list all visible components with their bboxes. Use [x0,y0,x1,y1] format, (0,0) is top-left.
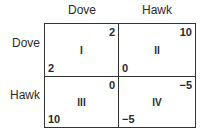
row-player-payoff: −5 [122,113,135,125]
row-header-hawk: Hawk [0,88,40,102]
col-player-payoff: 2 [109,26,115,38]
cell-II: 10 II 0 [119,24,195,76]
cell-III: 0 III 10 [45,77,118,127]
row-player-payoff: 0 [122,62,128,74]
col-player-payoff: 0 [109,79,115,91]
col-player-payoff: 10 [180,26,192,38]
row-player-payoff: 2 [48,62,54,74]
cell-label: III [45,97,118,108]
payoff-matrix: 2 I 2 10 II 0 0 III 10 −5 IV −5 [44,23,196,128]
cell-label: IV [119,97,195,108]
cell-I: 2 I 2 [45,24,118,76]
col-player-payoff: −5 [179,79,192,91]
cell-label: I [45,45,118,56]
column-header-dove: Dove [52,3,112,17]
cell-label: II [119,45,195,56]
column-header-hawk: Hawk [127,3,187,17]
row-player-payoff: 10 [48,113,60,125]
cell-IV: −5 IV −5 [119,77,195,127]
row-header-dove: Dove [0,36,40,50]
